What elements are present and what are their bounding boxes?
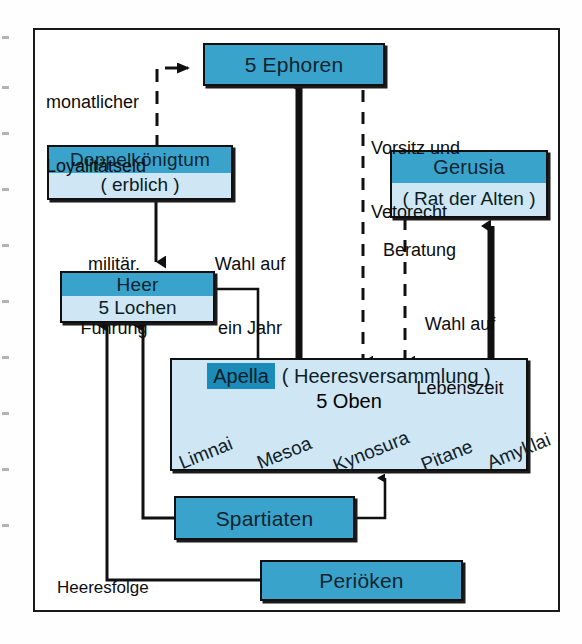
label-heeresfolge: Heeresfolge [57,578,149,598]
label-election-for-life: Wahl auf Lebenszeit [412,272,508,442]
label-line-1: militär. [78,254,150,275]
label-line-1: Wahl auf [412,314,508,335]
label-counsel: Beratung [383,240,456,261]
label-line-2: Loyalitätseid [46,156,146,177]
label-line-1: Wahl auf [207,254,293,275]
label-line-2: Vetorecht [371,202,460,223]
node-title: Periöken [262,562,461,599]
node-perioeken[interactable]: Periöken [260,560,463,601]
label-line-1: monatlicher [46,92,146,113]
apella-obe-mesoa: Mesoa [254,432,315,474]
edge-loyalty-oath [157,68,188,148]
diagram-canvas: 5 Ephoren Doppelkönigtum ( erblich ) Ger… [0,0,582,644]
node-spartiaten[interactable]: Spartiaten [174,496,355,540]
edge-spartiaten-to-apella [355,478,385,518]
node-title: Spartiaten [176,498,353,538]
label-line-2: Lebenszeit [412,378,508,399]
label-line-1: Vorsitz und [371,138,460,159]
label-loyalty-oath: monatlicher Loyalitätseid [46,50,146,220]
label-election-one-year: Wahl auf ein Jahr [207,212,293,382]
node-title: 5 Ephoren [205,45,383,84]
label-line-2: Führung [78,318,150,339]
label-military-leadership: militär. Führung [78,212,150,382]
apella-obe-limnai: Limnai [176,433,236,474]
node-5-ephoren[interactable]: 5 Ephoren [203,43,385,86]
label-line-2: ein Jahr [207,318,293,339]
apella-obe-kynosura: Kynosura [330,427,413,477]
